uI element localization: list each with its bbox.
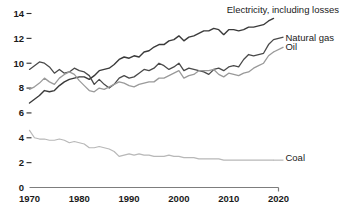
series-line	[30, 52, 274, 92]
y-tick-label: 4	[19, 132, 25, 143]
x-axis-line	[30, 188, 279, 192]
series-inline-labels: Electricity, including lossesNatural gas…	[227, 4, 340, 163]
x-tick-label: 1970	[19, 193, 40, 204]
x-tick-label: 2020	[268, 193, 289, 204]
y-tick-label: 2	[19, 157, 24, 168]
series-label: Electricity, including losses	[227, 4, 340, 15]
series-leader-line	[274, 47, 284, 52]
energy-consumption-line-chart: 02468101214 197019801990200020102020 Ele…	[0, 0, 342, 216]
y-tick-label: 8	[19, 82, 24, 93]
y-tick-label: 10	[13, 58, 24, 69]
series-leader-line	[274, 37, 284, 39]
x-tick-label: 1990	[119, 193, 140, 204]
series-line	[30, 18, 274, 103]
x-tick-label: 2000	[168, 193, 189, 204]
y-tick-label: 14	[13, 8, 24, 19]
series-label: Coal	[285, 152, 305, 163]
y-axis-ticks: 02468101214	[13, 8, 31, 193]
y-tick-label: 12	[13, 33, 24, 44]
y-tick-label: 0	[19, 182, 24, 193]
series-lines	[30, 18, 274, 160]
x-tick-label: 2010	[218, 193, 239, 204]
y-tick-label: 6	[19, 107, 24, 118]
chart-plot-area: 02468101214 197019801990200020102020 Ele…	[0, 0, 342, 216]
series-line	[30, 130, 274, 160]
x-axis-ticks: 197019801990200020102020	[19, 193, 289, 204]
series-label: Oil	[285, 41, 297, 52]
x-tick-label: 1980	[69, 193, 90, 204]
